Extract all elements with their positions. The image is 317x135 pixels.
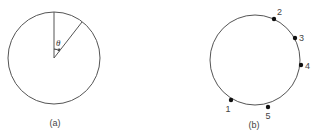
point-5-label: 5 (265, 111, 270, 121)
point-4-label: 4 (305, 61, 310, 71)
point-5 (266, 105, 270, 109)
caption-b: (b) (249, 120, 260, 130)
point-3-label: 3 (299, 33, 304, 43)
circle-b (210, 15, 300, 105)
point-2 (272, 17, 276, 21)
point-3 (293, 36, 297, 40)
figure-a: θ (a) (8, 12, 100, 128)
theta-label: θ (56, 38, 61, 48)
figure-b: 1 2 3 4 5 (b) (210, 7, 310, 130)
caption-a: (a) (50, 118, 61, 128)
point-4 (299, 63, 303, 67)
diagram-canvas: θ (a) 1 2 3 4 5 (b) (0, 0, 317, 135)
point-1-label: 1 (225, 104, 230, 114)
point-2-label: 2 (277, 7, 282, 17)
point-1 (229, 98, 233, 102)
